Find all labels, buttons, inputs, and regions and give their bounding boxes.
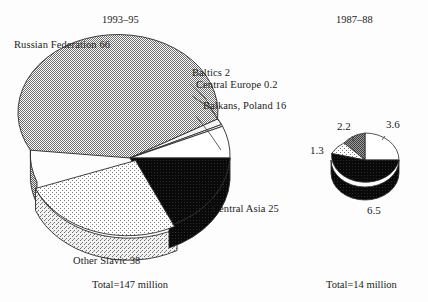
right-chart-title: 1987–88	[336, 14, 373, 25]
label-balkans-poland: Balkans, Poland 16	[203, 100, 286, 112]
slice-wall-russian-federation	[30, 150, 37, 204]
figure-root: 1993–95 1987–88 Russian Federation 66 Ba…	[0, 0, 428, 302]
label-central-asia: Central Asia 25	[212, 203, 279, 215]
slice-balkans-poland	[130, 126, 230, 158]
slice-baltics	[130, 119, 222, 158]
slice-other-slavic	[36, 161, 175, 236]
label-small-2-2: 2.2	[337, 120, 351, 132]
label-baltics: Baltics 2	[192, 67, 230, 79]
label-other-slavic: Other Slavic 38	[73, 255, 140, 267]
small-leader-line-3-6	[382, 136, 385, 140]
leader-line-balkans-poland	[196, 116, 221, 150]
slice-central-asia	[130, 158, 230, 226]
small-pie-1987-88	[331, 133, 399, 200]
label-central-europe: Central Europe 0.2	[196, 79, 278, 91]
small-slice-1-3	[332, 143, 365, 160]
slice-central-europe	[130, 125, 223, 159]
label-small-6-5: 6.5	[367, 204, 381, 216]
label-small-1-3: 1.3	[310, 144, 324, 156]
slice-wall-other-slavic	[36, 189, 178, 261]
small-slice-2-2	[344, 133, 365, 160]
label-russian-federation: Russian Federation 66	[14, 39, 110, 51]
right-chart-total: Total=14 million	[326, 279, 397, 290]
small-slice-6-5	[332, 154, 399, 183]
left-chart-total: Total=147 million	[92, 279, 168, 290]
small-slice-3-6	[365, 133, 399, 160]
left-chart-title: 1993–95	[102, 14, 139, 25]
label-small-3-6: 3.6	[386, 118, 400, 130]
slice-russian-federation	[18, 35, 218, 158]
small-slice-wall-6-5	[331, 160, 399, 200]
small-leader-line-2-2	[352, 136, 354, 142]
